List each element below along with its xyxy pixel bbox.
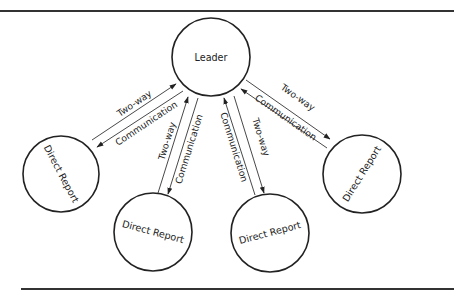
node-direct-report-3: Direct Report bbox=[231, 194, 309, 272]
edge-dr3: Communication Two-way bbox=[218, 96, 272, 195]
edge-label-communication: Communication bbox=[218, 111, 250, 184]
edge-label-communication: Communication bbox=[173, 113, 205, 186]
node-direct-report-4: Direct Report bbox=[323, 135, 401, 213]
node-direct-report-1: Direct Report bbox=[23, 136, 99, 212]
edge-label-two-way: Two-way bbox=[250, 116, 273, 158]
edge-dr4: Two-way Communication bbox=[241, 80, 330, 148]
two-way-communication-diagram: Two-way Communication Two-way Communicat… bbox=[0, 0, 454, 292]
node-label: Leader bbox=[195, 52, 228, 63]
node-direct-report-2: Direct Report bbox=[114, 193, 192, 271]
node-leader: Leader bbox=[172, 18, 250, 96]
